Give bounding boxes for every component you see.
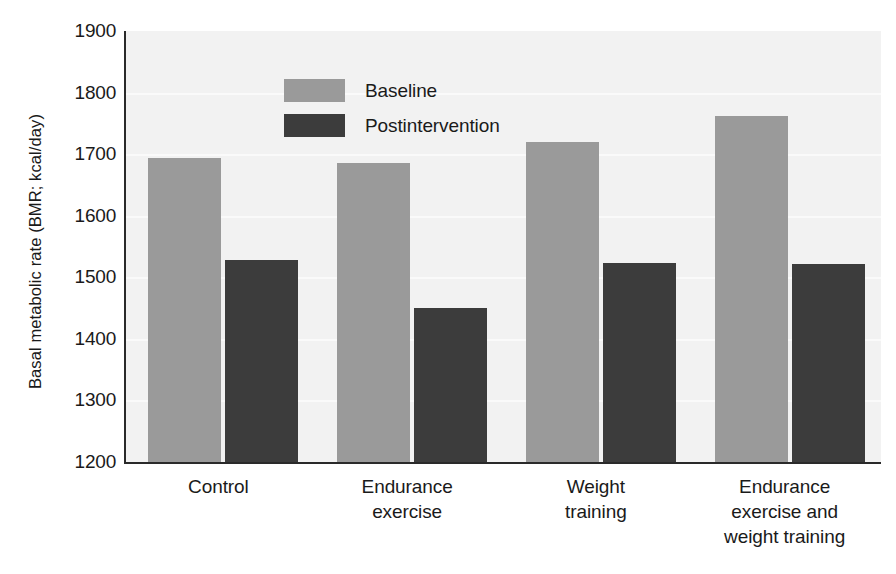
bars-layer bbox=[126, 31, 881, 462]
x-axis-category-label: Control bbox=[124, 474, 313, 499]
y-axis-tick-label: 1900 bbox=[18, 20, 116, 42]
bar bbox=[337, 163, 410, 462]
x-axis-category-label-line: Weight bbox=[502, 474, 691, 499]
legend-swatch bbox=[284, 114, 345, 137]
y-axis-tick-label: 1300 bbox=[18, 389, 116, 411]
y-axis-tick-label: 1700 bbox=[18, 143, 116, 165]
bar-chart: Basal metabolic rate (BMR; kcal/day) 190… bbox=[0, 0, 896, 574]
y-axis-tick-label: 1600 bbox=[18, 205, 116, 227]
bar bbox=[526, 142, 599, 462]
x-axis-category-label: Enduranceexercise andweight training bbox=[690, 474, 879, 549]
y-axis-tick-label: 1400 bbox=[18, 328, 116, 350]
y-axis-tick-label: 1800 bbox=[18, 82, 116, 104]
plot-area: BaselinePostintervention bbox=[124, 31, 881, 464]
y-axis-tick-label: 1200 bbox=[18, 451, 116, 473]
x-axis-category-label-line: Endurance bbox=[313, 474, 502, 499]
bar bbox=[792, 264, 865, 462]
bar bbox=[148, 158, 221, 462]
legend-swatch bbox=[284, 79, 345, 102]
x-axis-category-label-line: exercise and bbox=[690, 499, 879, 524]
x-axis-category-label-line: exercise bbox=[313, 499, 502, 524]
legend-item-label: Baseline bbox=[365, 80, 437, 102]
x-axis-category-label: Enduranceexercise bbox=[313, 474, 502, 524]
bar bbox=[414, 308, 487, 462]
legend-item: Baseline bbox=[284, 79, 500, 102]
y-axis-tick-label: 1500 bbox=[18, 266, 116, 288]
bar bbox=[715, 116, 788, 462]
legend-item: Postintervention bbox=[284, 114, 500, 137]
x-axis-category-label-line: Control bbox=[124, 474, 313, 499]
legend-item-label: Postintervention bbox=[365, 115, 500, 137]
y-axis-tick-labels: 19001800170016001500140013001200 bbox=[18, 0, 116, 574]
x-axis-category-label-line: weight training bbox=[690, 524, 879, 549]
bar bbox=[225, 260, 298, 462]
x-axis-category-label-line: Endurance bbox=[690, 474, 879, 499]
x-axis-category-label-line: training bbox=[502, 499, 691, 524]
legend: BaselinePostintervention bbox=[284, 79, 500, 149]
x-axis-category-labels: ControlEnduranceexerciseWeighttrainingEn… bbox=[124, 474, 879, 572]
x-axis-category-label: Weighttraining bbox=[502, 474, 691, 524]
bar bbox=[603, 263, 676, 462]
